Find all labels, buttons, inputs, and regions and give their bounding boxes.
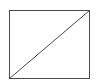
diagonal-line [10, 11, 90, 79]
diagram-canvas [0, 0, 97, 84]
